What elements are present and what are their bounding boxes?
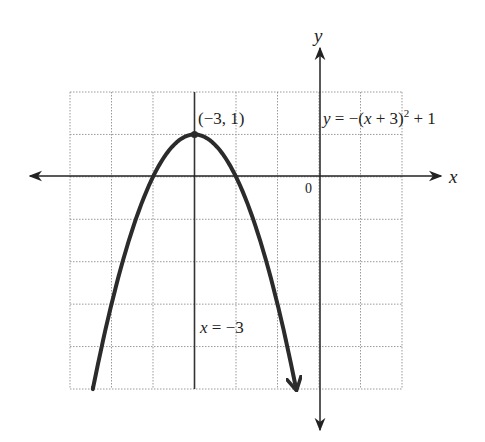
- axis-of-symmetry-label: x = −3: [199, 318, 244, 337]
- parabola-graph: y x 0 (−3, 1) y = −(x + 3)2 + 1 x = −3: [0, 0, 485, 442]
- y-axis-label: y: [312, 25, 323, 46]
- grid: [70, 92, 402, 389]
- origin-label: 0: [305, 181, 312, 196]
- x-axis-label: x: [448, 166, 458, 187]
- equation-label: y = −(x + 3)2 + 1: [321, 107, 436, 128]
- vertex-point: [191, 131, 198, 138]
- vertex-label: (−3, 1): [198, 109, 244, 128]
